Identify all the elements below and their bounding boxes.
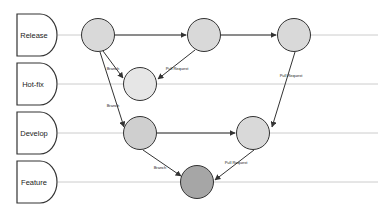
git-flow-diagram: Release Hot-fix Develop Feature Branch P… [0,0,390,213]
lane-label-text: Feature [21,178,47,187]
commit-node-release-3 [278,19,311,52]
lane-label-text: Release [20,31,48,40]
lane-label-release: Release [17,14,57,56]
edge-label: Branch [154,165,167,170]
lane-label-text: Develop [20,129,48,138]
edge-label: Branch [107,103,120,108]
commit-node-release-1 [82,19,115,52]
lane-label-text: Hot-fix [22,80,44,89]
edge-branch-release-hotfix [103,51,123,78]
edge-pr-release-develop [272,52,295,127]
lane-label-develop: Develop [17,112,57,154]
commit-node-hotfix-1 [124,68,157,101]
edge-label: Pull Request [225,160,249,165]
lane-lines [58,35,378,182]
edge-pr-develop-feature [215,150,254,180]
commit-node-develop-1 [124,117,157,150]
nodes [82,19,311,199]
edges [100,35,295,180]
commit-node-feature-1 [181,166,214,199]
edge-label: Branch [107,66,120,71]
lane-label-feature: Feature [17,161,57,203]
commit-node-develop-2 [237,117,270,150]
commit-node-release-2 [188,19,221,52]
edge-label: Pull Request [280,73,304,78]
lane-label-hotfix: Hot-fix [17,63,57,105]
edge-branch-develop-feature [143,150,181,176]
edge-label: Pull Request [166,66,190,71]
edge-pr-release-hotfix [158,50,195,79]
